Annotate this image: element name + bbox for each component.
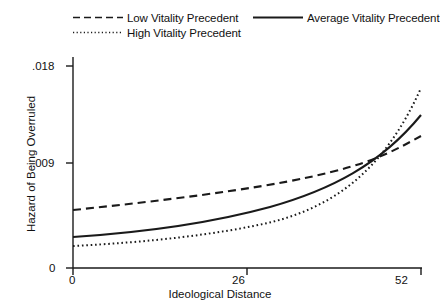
plot-area [0, 0, 440, 307]
x-tick-label-0: 0 [69, 274, 75, 286]
x-axis-title: Ideological Distance [0, 288, 440, 300]
series-line-average-vitality [73, 115, 421, 237]
x-tick-label-26: 26 [232, 274, 245, 286]
hazard-curve-figure: Low Vitality Precedent High Vitality Pre… [0, 0, 440, 307]
series-line-low-vitality [73, 136, 421, 210]
x-tick-label-52: 52 [395, 274, 408, 286]
y-axis-title: Hazard of Being Overruled [25, 64, 37, 264]
y-tick-label-0: 0 [49, 262, 55, 274]
series-line-high-vitality [73, 88, 421, 246]
